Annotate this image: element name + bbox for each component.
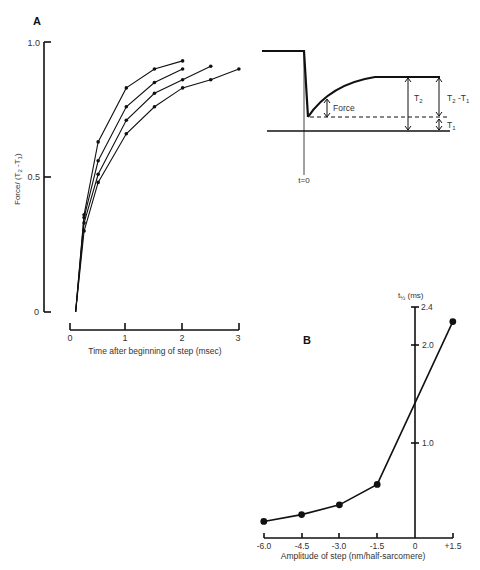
data-point <box>96 140 100 144</box>
data-point <box>374 481 381 488</box>
a-ytick-0: 0 <box>34 307 39 317</box>
a-ytick-1: 1.0 <box>27 38 40 48</box>
b-ylabel: t½ (ms) <box>398 291 424 301</box>
data-point <box>181 67 185 71</box>
data-point <box>209 65 213 69</box>
series-line <box>76 69 183 312</box>
b-xtick-4: 0 <box>413 541 418 551</box>
b-ytick-24: 2.4 <box>421 302 433 312</box>
panel-a-y-axis <box>44 42 51 312</box>
data-point <box>181 78 185 82</box>
series-line <box>76 69 239 312</box>
b-xtick-1: -4.5 <box>295 541 310 551</box>
panel-b-label: B <box>303 334 311 346</box>
b-xtick-0: -6.0 <box>257 541 272 551</box>
data-point <box>237 67 241 71</box>
data-point <box>96 159 100 163</box>
inset-t2-t1-label: T2 -T1 <box>447 93 470 104</box>
a-xlabel: Time after beginning of step (msec) <box>88 346 222 356</box>
a-ytick-05: 0.5 <box>27 172 40 182</box>
data-point <box>96 173 100 177</box>
inset-t1-label: T1 <box>447 120 456 131</box>
data-point <box>125 119 129 123</box>
data-point <box>336 501 343 508</box>
b-xtick-3: -1.5 <box>370 541 385 551</box>
panel-a-x-axis <box>70 323 239 330</box>
data-point <box>153 81 157 85</box>
data-point <box>82 229 86 233</box>
b-xlabel: Amplitude of step (nm/half-sarcomere) <box>281 551 426 561</box>
data-point <box>96 181 100 185</box>
panel-a-series <box>76 59 241 312</box>
b-xtick-2: -3.0 <box>332 541 347 551</box>
data-point <box>209 78 213 82</box>
b-xtick-5: +1.5 <box>445 541 462 551</box>
a-ylabel: Force/ (T2 -T1) <box>13 153 23 205</box>
data-point <box>298 511 305 518</box>
data-point <box>125 86 129 90</box>
panel-a-label: A <box>33 15 41 27</box>
a-xtick-3: 3 <box>235 333 240 343</box>
figure: A 1.0 0.5 0 Force/ (T2 -T1) 0 1 2 3 Time… <box>0 0 480 570</box>
data-point <box>125 132 129 136</box>
a-xtick-1: 1 <box>122 333 127 343</box>
data-point <box>260 518 267 525</box>
series-line <box>264 322 453 522</box>
data-point <box>181 86 185 90</box>
data-point <box>153 92 157 96</box>
a-xtick-2: 2 <box>179 333 184 343</box>
inset-t2-label: T2 <box>414 93 423 104</box>
data-point <box>181 59 185 63</box>
a-xtick-0: 0 <box>67 333 72 343</box>
b-ytick-20: 2.0 <box>422 340 434 350</box>
data-point <box>449 318 456 325</box>
data-point <box>82 221 86 225</box>
data-point <box>125 105 129 109</box>
inset-force-label: Force <box>333 103 355 113</box>
data-point <box>153 67 157 71</box>
inset-t0-label: t=0 <box>298 176 310 185</box>
data-point <box>153 105 157 109</box>
inset-diagram <box>262 51 450 175</box>
b-ytick-10: 1.0 <box>422 438 434 448</box>
